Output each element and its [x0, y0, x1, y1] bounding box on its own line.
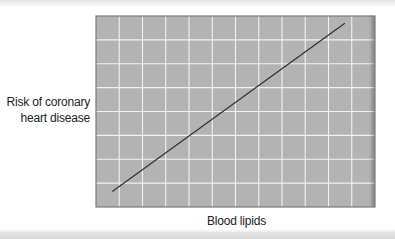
x-axis-label: Blood lipids: [207, 214, 266, 228]
plot-area: [96, 16, 375, 207]
plot-edge-shade: [369, 16, 375, 207]
y-axis-label-line-1: Risk of coronary: [0, 94, 90, 110]
bottom-shade-band: [0, 229, 395, 239]
y-axis-label-line-2: heart disease: [0, 110, 90, 126]
y-axis-label: Risk of coronary heart disease: [0, 94, 90, 126]
